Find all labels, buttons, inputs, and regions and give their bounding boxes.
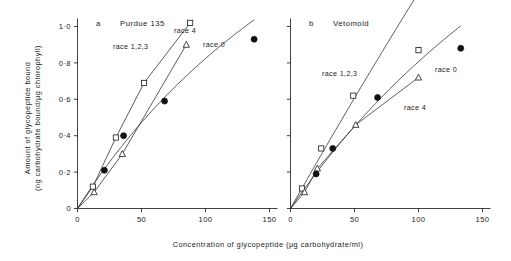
data-point-open-triangle — [119, 151, 125, 157]
y-axis-title-line2: (ng carbohydrate bound/μg chlorophyll) — [33, 45, 42, 191]
x-tick-label: 150 — [263, 215, 277, 224]
x-axis-title: Concentration of glycopeptide (μg carboh… — [173, 240, 364, 249]
panel-title: Vetomold — [333, 19, 369, 28]
y-tick-label: 0·8 — [59, 59, 71, 68]
data-point-filled-circle — [458, 45, 464, 51]
series-label-race4-panel-a: race 4 — [174, 26, 196, 35]
curve-race-0 — [78, 20, 255, 209]
data-point-open-square — [141, 80, 146, 85]
data-point-filled-circle — [330, 145, 336, 151]
panel-a: 00·20·40·60·81·0050100150aPurdue 135 — [59, 19, 278, 225]
glycopeptide-binding-figure: 00·20·40·60·81·0050100150aPurdue 1350501… — [0, 0, 511, 261]
data-point-filled-circle — [121, 133, 127, 139]
y-tick-label: 0·6 — [59, 95, 71, 104]
data-point-open-triangle — [183, 41, 189, 47]
curve-race-1-2-3 — [291, 0, 419, 208]
data-point-filled-circle — [375, 94, 381, 100]
series-label-race0-panel-b: race 0 — [435, 65, 457, 74]
y-tick-label: 0·4 — [59, 131, 71, 140]
axis-lines — [78, 19, 278, 209]
series-label-race4-panel-b: race 4 — [404, 103, 426, 112]
data-point-filled-circle — [313, 171, 319, 177]
data-point-open-square — [351, 93, 356, 98]
x-tick-label: 150 — [476, 215, 490, 224]
markers-race-4 — [301, 74, 421, 195]
series-label-races123-panel-a: race 1,2,3 — [113, 42, 148, 51]
data-point-open-square — [113, 135, 118, 140]
y-tick-label: 1·0 — [59, 22, 71, 31]
x-tick-label: 100 — [412, 215, 426, 224]
data-point-open-square — [188, 20, 193, 25]
data-point-filled-circle — [251, 36, 257, 42]
panel-letter: b — [309, 19, 314, 28]
panel-b: 050100150bVetomold — [287, 0, 491, 224]
data-point-open-square — [416, 48, 421, 53]
x-tick-label: 0 — [75, 215, 80, 224]
panel-title: Purdue 135 — [120, 19, 165, 28]
data-point-open-square — [90, 184, 95, 189]
panel-letter: a — [96, 19, 101, 28]
data-point-open-square — [319, 146, 324, 151]
series-label-races123-panel-b: race 1,2,3 — [322, 69, 357, 78]
data-point-open-triangle — [415, 74, 421, 80]
series-label-race0-panel-a: race 0 — [203, 40, 225, 49]
x-tick-label: 50 — [350, 215, 359, 224]
x-tick-label: 100 — [199, 215, 213, 224]
x-tick-label: 0 — [288, 215, 293, 224]
curve-race-0 — [291, 26, 461, 209]
figure-root: 00·20·40·60·81·0050100150aPurdue 1350501… — [0, 0, 511, 261]
y-axis-title-line1: Amount of glycopeptide bound — [23, 62, 32, 174]
x-tick-label: 50 — [137, 215, 146, 224]
y-tick-label: 0·2 — [59, 168, 71, 177]
data-point-filled-circle — [162, 98, 168, 104]
y-tick-label: 0 — [66, 204, 71, 213]
data-point-filled-circle — [101, 167, 107, 173]
